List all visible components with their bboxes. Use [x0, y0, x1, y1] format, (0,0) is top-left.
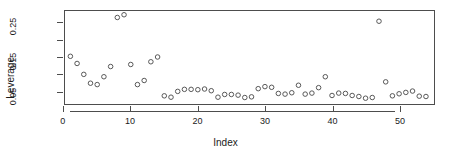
x-axis-line: [70, 111, 395, 112]
data-point: [75, 61, 80, 66]
data-point: [330, 93, 335, 98]
data-point: [149, 60, 154, 65]
data-point: [209, 88, 214, 93]
data-point: [216, 95, 221, 100]
data-point: [243, 95, 248, 100]
data-point: [108, 64, 113, 69]
x-tick-mark: [63, 106, 64, 112]
data-point: [350, 93, 355, 98]
data-point: [336, 91, 341, 96]
data-point: [88, 81, 93, 86]
x-tick-mark: [198, 106, 199, 112]
x-tick-mark: [265, 106, 266, 112]
data-point: [256, 86, 261, 91]
data-point: [397, 92, 402, 97]
data-point: [316, 85, 321, 90]
y-tick-mark: [57, 40, 63, 41]
data-point: [115, 15, 120, 20]
x-tick-mark: [333, 106, 334, 112]
x-axis-title: Index: [0, 137, 451, 148]
data-point: [122, 12, 127, 17]
data-point: [229, 92, 234, 97]
data-point: [142, 78, 147, 83]
data-point: [249, 95, 254, 100]
data-point: [404, 90, 409, 95]
data-point: [236, 93, 241, 98]
data-point: [276, 91, 281, 96]
data-point: [283, 92, 288, 97]
data-point: [323, 74, 328, 79]
data-point: [357, 94, 362, 99]
y-tick-label: 0.05: [9, 88, 18, 106]
data-point: [269, 85, 274, 90]
data-point: [95, 82, 100, 87]
data-point: [82, 72, 87, 77]
data-point: [263, 84, 268, 89]
data-point: [390, 94, 395, 99]
plot-area: [64, 10, 435, 105]
data-point: [68, 54, 73, 59]
y-tick-mark: [57, 22, 63, 23]
data-point: [202, 87, 207, 92]
x-tick-label: 10: [125, 116, 135, 126]
x-axis: 01020304050 Index: [0, 105, 451, 162]
data-point: [383, 80, 388, 85]
data-points-layer: [65, 11, 434, 104]
data-point: [102, 74, 107, 79]
data-point: [222, 92, 227, 97]
data-point: [289, 91, 294, 96]
data-point: [363, 96, 368, 101]
x-tick-label: 50: [395, 116, 405, 126]
data-point: [135, 82, 140, 87]
scatter-plot-figure: Leverage 0.050.150.25 01020304050 Index: [0, 0, 451, 162]
data-point: [424, 94, 429, 99]
data-point: [162, 94, 167, 99]
data-point: [343, 91, 348, 96]
data-point: [175, 89, 180, 94]
data-point: [155, 55, 160, 60]
y-tick-mark: [57, 74, 63, 75]
y-tick-label: 0.25: [9, 18, 18, 36]
data-point: [182, 87, 187, 92]
y-tick-label: 0.15: [9, 53, 18, 71]
data-point: [296, 83, 301, 88]
y-tick-mark: [57, 57, 63, 58]
x-tick-mark: [400, 106, 401, 112]
x-tick-label: 30: [260, 116, 270, 126]
x-tick-label: 0: [60, 116, 65, 126]
data-point: [377, 19, 382, 24]
x-tick-label: 40: [327, 116, 337, 126]
data-point: [303, 92, 308, 97]
x-tick-mark: [130, 106, 131, 112]
data-point: [417, 94, 422, 99]
data-point: [189, 87, 194, 92]
y-tick-mark: [57, 92, 63, 93]
data-point: [128, 62, 133, 67]
data-point: [196, 87, 201, 92]
x-tick-label: 20: [193, 116, 203, 126]
data-point: [410, 89, 415, 94]
data-point: [169, 95, 174, 100]
data-point: [310, 91, 315, 96]
data-point: [370, 95, 375, 100]
